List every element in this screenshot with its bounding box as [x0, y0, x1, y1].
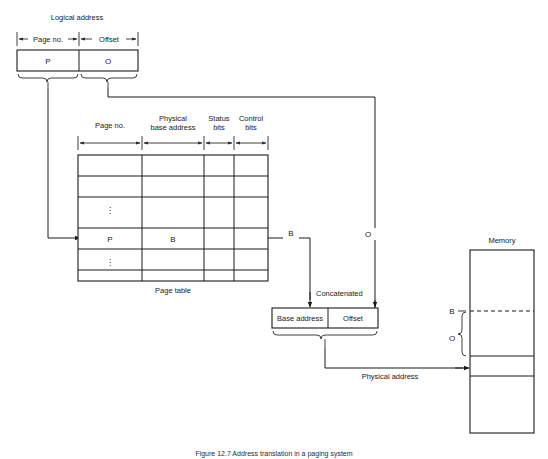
memory-block	[470, 250, 534, 433]
page-table-header-physical-line2: base address	[150, 123, 195, 132]
offset-signal-label-text: O	[365, 230, 371, 239]
page-table-row-ellipsis-upper: ⋮	[106, 206, 114, 215]
logical-address-brace-offset	[81, 74, 137, 88]
memory-marker-offset: O	[449, 334, 455, 343]
logical-address-field-label-page-no: Page no.	[33, 35, 63, 44]
logical-address-title: Logical address	[51, 13, 104, 22]
page-table-title: Page table	[155, 286, 191, 295]
page-table-header-page-no: Page no.	[95, 121, 125, 130]
page-table-header-physical-line1: Physical	[159, 114, 187, 123]
physical-address-cell-offset: Offset	[343, 314, 364, 323]
base-address-routing-line	[268, 238, 310, 300]
base-address-signal-label: B	[288, 229, 293, 238]
physical-address-cell-base-address: Base address	[277, 314, 323, 323]
memory-offset-brace	[458, 312, 466, 356]
page-table-column-headers: Page no. Physical base address Status bi…	[95, 114, 263, 132]
page-table-header-status-line1: Status	[208, 114, 230, 123]
page-no-routing-line	[48, 88, 72, 238]
page-table-header-control-line2: bits	[245, 123, 257, 132]
logical-address-brace-page-no	[18, 74, 78, 88]
page-table-row-match-base-address: B	[170, 235, 175, 244]
page-table-row-match-page-no: P	[107, 235, 112, 244]
concatenated-label: Concatenated	[316, 289, 363, 298]
logical-address-cell-offset: O	[105, 57, 111, 66]
figure-caption: Figure 12.7 Address translation in a pag…	[195, 450, 352, 458]
page-table-header-status-line2: bits	[213, 123, 225, 132]
address-translation-diagram: Logical address Page no. Offset P O O O …	[0, 0, 548, 459]
physical-address-routing-line	[325, 348, 463, 368]
logical-address-cell-page-no: P	[45, 57, 50, 66]
memory-title: Memory	[488, 236, 515, 245]
page-table-header-control-line1: Control	[239, 114, 264, 123]
memory-marker-base: B	[449, 307, 454, 316]
physical-address-brace	[273, 331, 377, 348]
page-table-header-dimensions	[78, 136, 268, 150]
physical-address-label: Physical address	[362, 372, 419, 381]
diagram-canvas: Logical address Page no. Offset P O O O …	[0, 0, 548, 459]
page-table-row-ellipsis-lower: ⋮	[106, 258, 114, 267]
logical-address-field-label-offset: Offset	[99, 35, 120, 44]
logical-address-box	[17, 50, 138, 71]
